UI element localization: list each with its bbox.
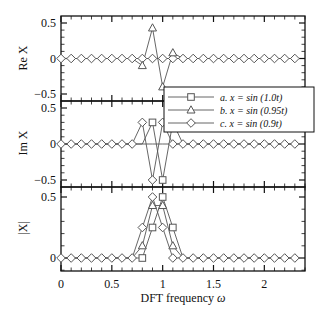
diamond-marker	[57, 140, 66, 149]
series-line	[61, 197, 295, 258]
diamond-marker	[77, 254, 86, 263]
diamond-marker	[57, 54, 66, 63]
diamond-marker	[189, 254, 198, 263]
diamond-marker	[57, 254, 66, 263]
diamond-marker	[87, 140, 96, 149]
square-marker	[149, 224, 156, 231]
diamond-marker	[199, 54, 208, 63]
x-tick-label: 2	[261, 277, 267, 291]
diamond-marker	[118, 54, 127, 63]
diamond-marker	[240, 140, 249, 149]
diamond-marker	[97, 254, 106, 263]
diamond-marker	[189, 140, 198, 149]
triangle-marker	[138, 242, 146, 249]
legend-entry-label: b. x = sin (0.95t)	[220, 105, 288, 117]
series-line	[61, 197, 295, 258]
diamond-marker	[179, 54, 188, 63]
legend-entry-label: a. x = sin (1.0t)	[220, 92, 283, 104]
diamond-marker	[67, 54, 76, 63]
diamond-marker	[280, 254, 289, 263]
square-marker	[170, 224, 177, 231]
diamond-marker	[148, 193, 157, 202]
diamond-marker	[219, 254, 228, 263]
diamond-marker	[280, 54, 289, 63]
diamond-marker	[138, 118, 147, 127]
diamond-marker	[260, 254, 269, 263]
triangle-marker	[149, 24, 157, 31]
y-tick-label: −0.5	[34, 173, 56, 187]
diamond-marker	[87, 254, 96, 263]
diamond-marker	[260, 140, 269, 149]
diamond-marker	[158, 223, 167, 232]
diamond-marker	[118, 140, 127, 149]
y-tick-label: 0.5	[41, 190, 56, 204]
diamond-marker	[189, 54, 198, 63]
square-marker	[149, 119, 156, 126]
legend-entry-label: c. x = sin (0.9t)	[220, 118, 282, 130]
diamond-marker	[270, 140, 279, 149]
diamond-marker	[67, 140, 76, 149]
diamond-marker	[97, 140, 106, 149]
diamond-marker	[291, 140, 300, 149]
diamond-marker	[138, 223, 147, 232]
panel2-y-axis-title: Im X	[16, 130, 30, 155]
diamond-marker	[158, 54, 167, 63]
diamond-marker	[108, 254, 117, 263]
square-marker	[159, 177, 166, 184]
diamond-marker	[77, 140, 86, 149]
series-line	[61, 28, 295, 87]
x-tick-label: 1	[160, 277, 166, 291]
x-tick-label: 0	[58, 277, 64, 291]
dft-chart: 0.50−0.50.50−0.50.50 00.511.52 DFT frequ…	[0, 0, 320, 313]
data-series	[57, 24, 299, 263]
diamond-marker	[219, 140, 228, 149]
panel3-y-axis-title: |X|	[16, 221, 30, 234]
x-tick-label: 1.5	[206, 277, 221, 291]
diamond-marker	[270, 254, 279, 263]
diamond-marker	[87, 54, 96, 63]
y-tick-label: 0	[50, 251, 56, 265]
diamond-marker	[219, 54, 228, 63]
diamond-marker	[199, 140, 208, 149]
triangle-marker	[169, 49, 177, 56]
diamond-marker	[240, 254, 249, 263]
square-marker	[159, 194, 166, 201]
diamond-marker	[250, 140, 259, 149]
diamond-marker	[280, 140, 289, 149]
y-tick-label: 0	[50, 137, 56, 151]
diamond-marker	[108, 140, 117, 149]
diamond-marker	[148, 54, 157, 63]
y-tick-label: 0.5	[41, 16, 56, 30]
diamond-marker	[250, 54, 259, 63]
diamond-marker	[108, 54, 117, 63]
diamond-marker	[77, 54, 86, 63]
diamond-marker	[128, 140, 137, 149]
diamond-marker	[250, 254, 259, 263]
diamond-marker	[209, 254, 218, 263]
diamond-marker	[179, 140, 188, 149]
y-tick-label: 0	[50, 52, 56, 66]
diamond-marker	[148, 176, 157, 185]
series-line	[61, 206, 295, 258]
y-axis-labels: 0.50−0.50.50−0.50.50	[34, 16, 56, 265]
diamond-marker	[67, 254, 76, 263]
triangle-marker	[138, 61, 146, 68]
diamond-marker	[291, 54, 300, 63]
diamond-marker	[118, 254, 127, 263]
diamond-marker	[209, 140, 218, 149]
legend: a. x = sin (1.0t)b. x = sin (0.95t)c. x …	[164, 87, 314, 132]
diamond-marker	[97, 54, 106, 63]
diamond-marker	[128, 54, 137, 63]
diamond-marker	[240, 54, 249, 63]
diamond-marker	[291, 254, 300, 263]
diamond-marker	[260, 54, 269, 63]
diamond-marker	[230, 254, 239, 263]
triangle-marker	[169, 242, 177, 249]
diamond-marker	[199, 254, 208, 263]
diamond-marker	[230, 140, 239, 149]
diamond-marker	[209, 54, 218, 63]
diamond-marker	[169, 254, 178, 263]
panel1-y-axis-title: Re X	[16, 45, 30, 70]
x-axis-title: DFT frequency ω	[141, 291, 226, 305]
y-tick-label: −0.5	[34, 87, 56, 101]
